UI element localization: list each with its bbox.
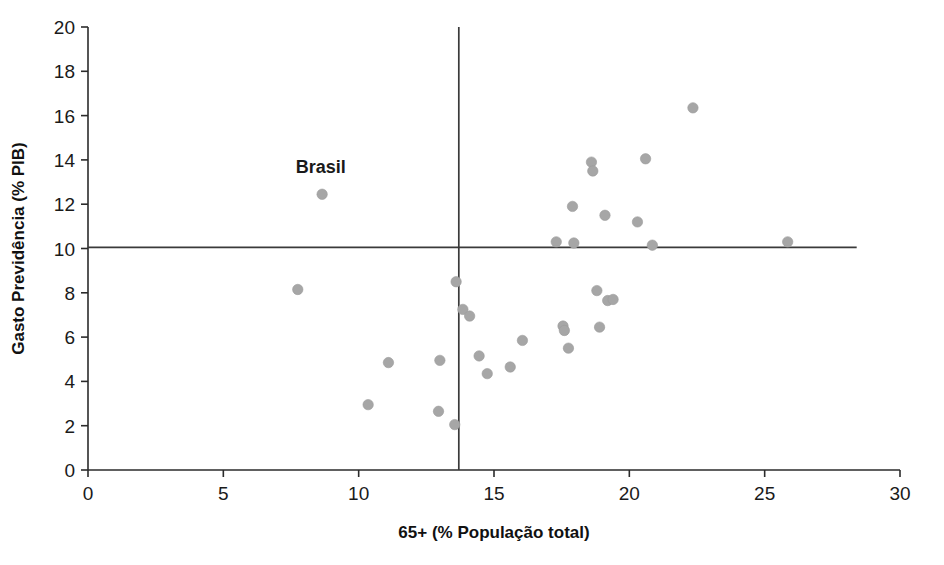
data-point[interactable] <box>517 335 527 345</box>
y-tick-label: 6 <box>64 327 75 348</box>
annotation-label: Brasil <box>296 157 346 177</box>
x-tick-label: 10 <box>348 483 369 504</box>
x-tick-label: 0 <box>83 483 94 504</box>
data-point[interactable] <box>559 325 569 335</box>
data-point-group <box>293 103 793 430</box>
data-point[interactable] <box>588 166 598 176</box>
y-tick-label: 0 <box>64 460 75 481</box>
data-point[interactable] <box>363 399 373 409</box>
data-point[interactable] <box>567 201 577 211</box>
data-point[interactable] <box>608 294 618 304</box>
y-tick-label: 16 <box>54 106 75 127</box>
y-tick-label: 12 <box>54 194 75 215</box>
chart-page: 02468101214161820051015202530Brasil65+ (… <box>0 0 944 565</box>
data-point[interactable] <box>505 362 515 372</box>
x-tick-label: 20 <box>619 483 640 504</box>
x-tick-label: 5 <box>218 483 229 504</box>
data-point[interactable] <box>317 189 327 199</box>
x-tick-label: 25 <box>754 483 775 504</box>
data-point[interactable] <box>293 284 303 294</box>
data-point[interactable] <box>474 351 484 361</box>
data-point[interactable] <box>647 240 657 250</box>
data-point[interactable] <box>450 419 460 429</box>
data-point[interactable] <box>688 103 698 113</box>
y-axis-title: Gasto Previdência (% PIB) <box>9 142 28 355</box>
data-point[interactable] <box>433 406 443 416</box>
data-point[interactable] <box>563 343 573 353</box>
y-tick-label: 4 <box>64 371 75 392</box>
y-tick-label: 14 <box>54 150 76 171</box>
data-point[interactable] <box>782 237 792 247</box>
y-tick-label: 8 <box>64 283 75 304</box>
data-point[interactable] <box>632 217 642 227</box>
data-point[interactable] <box>569 238 579 248</box>
data-point[interactable] <box>600 210 610 220</box>
y-tick-label: 20 <box>54 17 75 38</box>
data-point[interactable] <box>451 277 461 287</box>
data-point[interactable] <box>482 368 492 378</box>
x-tick-label: 15 <box>483 483 504 504</box>
data-point[interactable] <box>551 237 561 247</box>
y-tick-label: 10 <box>54 239 75 260</box>
data-point[interactable] <box>592 285 602 295</box>
x-tick-label: 30 <box>889 483 910 504</box>
y-tick-label: 2 <box>64 416 75 437</box>
data-point[interactable] <box>435 355 445 365</box>
data-point[interactable] <box>383 357 393 367</box>
data-point[interactable] <box>594 322 604 332</box>
y-tick-label: 18 <box>54 61 75 82</box>
x-axis-title: 65+ (% População total) <box>398 523 589 542</box>
data-point[interactable] <box>640 154 650 164</box>
data-point[interactable] <box>464 311 474 321</box>
scatter-plot: 02468101214161820051015202530Brasil65+ (… <box>0 0 944 565</box>
